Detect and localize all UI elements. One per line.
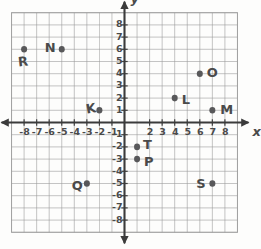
plotted-point	[197, 70, 203, 77]
plotted-point	[134, 156, 140, 163]
plotted-point	[21, 46, 27, 53]
coordinate-plane-svg	[0, 0, 261, 249]
plotted-point	[209, 107, 215, 114]
graph-paper-canvas: RNKOLMTPQS -8-7-6-5-4-3-2-12345678876543…	[0, 0, 261, 249]
plotted-point	[172, 95, 178, 102]
plotted-point	[96, 107, 102, 114]
plotted-point	[209, 180, 215, 187]
plotted-point	[134, 144, 140, 151]
plotted-point	[84, 180, 90, 187]
plotted-point	[59, 46, 65, 53]
plotted-points	[21, 46, 215, 187]
